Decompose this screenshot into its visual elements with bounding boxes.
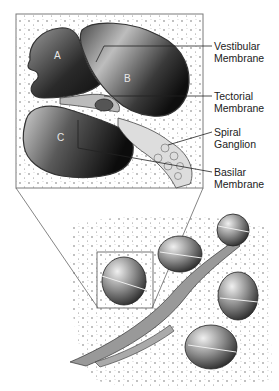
chamber-b-label: B xyxy=(124,73,131,84)
chamber-a-label: A xyxy=(54,50,61,61)
chamber-c-label: C xyxy=(57,132,64,143)
cochlea-overview xyxy=(70,214,272,388)
callout-spiral-ganglion: Spiral Ganglion xyxy=(214,126,256,150)
cochlea-diagram: A B C Vestibul xyxy=(0,0,279,391)
callout-tectorial-membrane: Tectorial Membrane xyxy=(214,90,264,114)
callout-basilar-membrane: Basilar Membrane xyxy=(214,166,264,190)
callout-vestibular-membrane: Vestibular Membrane xyxy=(214,40,264,64)
detail-frame: A B C xyxy=(16,14,212,188)
